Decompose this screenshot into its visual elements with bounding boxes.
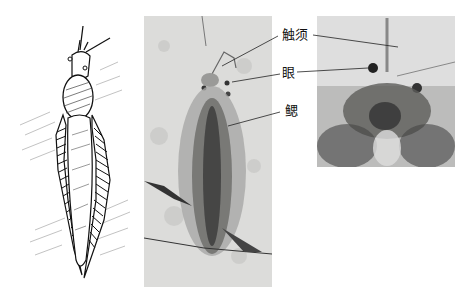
label-antennae: 触须 xyxy=(282,28,308,42)
label-gill: 鳃 xyxy=(285,104,298,118)
label-leader-lines xyxy=(0,0,470,302)
label-eye: 眼 xyxy=(282,66,295,80)
